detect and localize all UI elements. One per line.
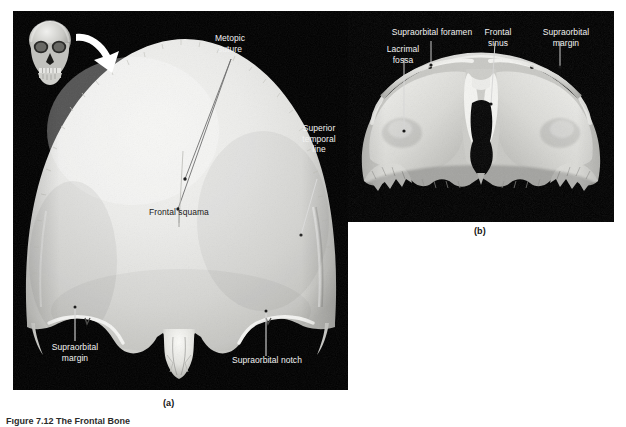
label-supraorbital-notch: Supraorbital notch [209,355,325,366]
label-frontal-squama: Frontal squama [129,207,229,218]
label-lacrimal-fossa: Lacrimal fossa [372,44,434,65]
panel-a-caption: (a) [163,398,174,408]
figure-bottom-caption: Figure 7.12 The Frontal Bone [6,418,306,427]
label-superior-temporal-line: Superior temporal line [290,123,348,155]
figure-bottom-caption-text: Figure 7.12 The Frontal Bone [6,418,306,426]
panel-b-caption: (b) [474,226,486,236]
panel-b: Supraorbital foramen Lacrimal fossa Fron… [348,11,614,222]
panel-a: Metopic suture Superior temporal line Fr… [13,11,348,390]
label-metopic-suture: Metopic suture [191,33,269,54]
label-supraorbital-margin-b: Supraorbital margin [526,27,606,48]
label-frontal-sinus: Frontal sinus [472,27,524,48]
skull-orientation-inset [17,16,87,88]
figure-page: Metopic suture Superior temporal line Fr… [0,0,626,427]
label-supraorbital-margin: Supraorbital margin [33,342,117,363]
